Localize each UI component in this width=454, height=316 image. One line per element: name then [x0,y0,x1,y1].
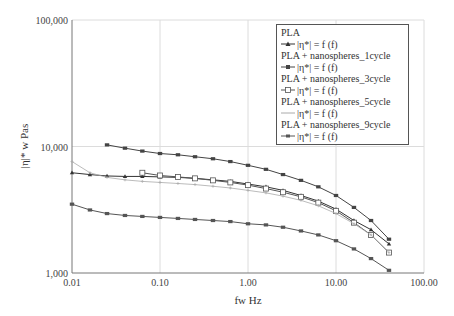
legend-item-1cycle: PLA + nanospheres_1cycle |η*| = f (f) [281,50,404,73]
series-line [140,170,392,255]
legend-label: PLA [281,27,404,39]
legend-label: PLA + nanospheres_1cycle [281,50,404,62]
legend: PLA |η*| = f (f) PLA + nanospheres_1cycl… [276,24,409,145]
data-series [70,143,392,272]
series-line [71,160,391,254]
x-axis-label: fw Hz [234,294,261,306]
y-axis-label: |η|* w Pas [18,124,30,168]
legend-formula: |η*| = f (f) [297,108,338,120]
x-tick-label: 100.00 [410,277,438,288]
open-square-marker-icon [281,86,295,94]
y-tick-label: 1,000 [46,268,69,279]
filled-square-marker-icon [281,63,295,71]
filled-triangle-marker-icon [281,40,295,48]
legend-item-pla: PLA |η*| = f (f) [281,27,404,50]
filled-square-marker-icon [281,132,295,140]
legend-label: PLA + nanospheres_5cycle [281,96,404,108]
legend-formula: |η*| = f (f) [297,85,338,97]
y-tick-label: 100,000 [36,15,69,26]
legend-item-3cycle: PLA + nanospheres_3cycle |η*| = f (f) [281,73,404,96]
legend-item-5cycle: PLA + nanospheres_5cycle |η*| = f (f) [281,96,404,119]
plus-marker-icon [281,109,295,117]
legend-label: PLA + nanospheres_9cycle [281,119,404,131]
x-tick-label: 0.10 [151,277,169,288]
legend-formula: |η*| = f (f) [297,131,338,143]
x-tick-label: 10.00 [325,277,348,288]
x-tick-label: 1.00 [239,277,257,288]
y-tick-label: 10,000 [41,142,69,153]
legend-item-9cycle: PLA + nanospheres_9cycle |η*| = f (f) [281,119,404,142]
legend-formula: |η*| = f (f) [297,39,338,51]
legend-label: PLA + nanospheres_3cycle [281,73,404,85]
legend-formula: |η*| = f (f) [297,62,338,74]
